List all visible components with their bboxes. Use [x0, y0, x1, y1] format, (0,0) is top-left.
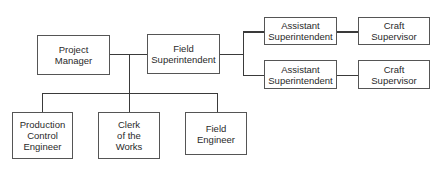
node-label: Project Manager [55, 44, 93, 66]
node-label: Field Engineer [197, 123, 235, 145]
node-project-manager: Project Manager [37, 35, 110, 75]
node-assistant-superintendent-2: Assistant Superintendent [264, 60, 337, 89]
connector-to-pce [42, 93, 44, 113]
connector-to-field-engineer [217, 93, 219, 113]
node-label: Assistant Superintendent [268, 64, 332, 86]
node-label: Craft Supervisor [371, 20, 416, 42]
node-label: Production Control Engineer [20, 119, 65, 152]
node-label: Craft Supervisor [371, 64, 416, 86]
node-field-engineer: Field Engineer [185, 112, 247, 155]
node-clerk-of-the-works: Clerk of the Works [98, 112, 160, 159]
connector-to-asst-2 [243, 75, 265, 77]
node-craft-supervisor-2: Craft Supervisor [358, 60, 430, 89]
connector-bracket-vertical [243, 31, 245, 76]
connector-asst2-craft2 [337, 75, 358, 77]
node-label: Field Superintendent [151, 43, 215, 65]
node-craft-supervisor-1: Craft Supervisor [358, 17, 430, 45]
connector-asst1-craft1 [337, 31, 358, 33]
connector-trunk-down [129, 54, 131, 94]
node-label: Clerk of the Works [116, 119, 143, 152]
node-field-superintendent: Field Superintendent [147, 34, 220, 74]
node-assistant-superintendent-1: Assistant Superintendent [264, 17, 337, 45]
node-production-control-engineer: Production Control Engineer [12, 112, 73, 159]
connector-to-asst-1 [243, 31, 265, 33]
connector-fs-bracket [220, 54, 244, 56]
node-label: Assistant Superintendent [268, 20, 332, 42]
connector-to-clerk [129, 93, 131, 113]
